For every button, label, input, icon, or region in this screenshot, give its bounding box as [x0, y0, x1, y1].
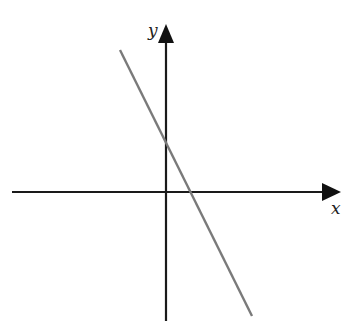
- y-axis-arrow-icon: [158, 24, 174, 43]
- y-axis-label: y: [147, 20, 158, 40]
- x-axis-label: x: [331, 198, 341, 218]
- coordinate-plane: y x: [0, 0, 352, 321]
- graph-line: [120, 50, 252, 316]
